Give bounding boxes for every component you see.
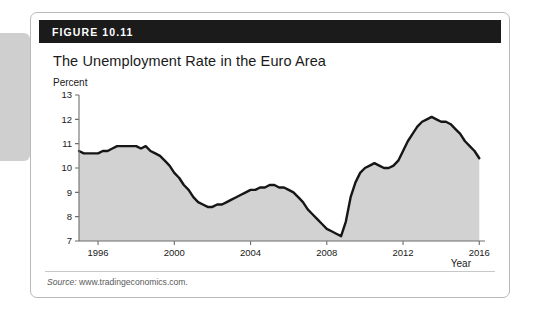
figure-divider	[45, 271, 495, 272]
svg-text:13: 13	[61, 91, 72, 100]
svg-text:2016: 2016	[469, 247, 490, 258]
svg-text:12: 12	[61, 114, 72, 125]
svg-text:2008: 2008	[316, 247, 337, 258]
side-tab-body	[0, 33, 30, 161]
figure-source: Source: www.tradingeconomics.com.	[47, 277, 188, 287]
svg-text:9: 9	[67, 187, 72, 198]
x-axis-label: Year	[451, 258, 471, 269]
svg-text:7: 7	[67, 235, 72, 246]
svg-text:2000: 2000	[164, 247, 185, 258]
y-axis-label: Percent	[53, 77, 87, 88]
source-prefix: Source:	[47, 277, 77, 287]
source-url-text: www.tradingeconomics.com.	[79, 277, 188, 287]
svg-text:2012: 2012	[392, 247, 413, 258]
x-axis-ticks: 199620002004200820122016	[87, 241, 489, 258]
svg-text:10: 10	[61, 162, 72, 173]
svg-text:11: 11	[62, 138, 72, 149]
figure-title: The Unemployment Rate in the Euro Area	[53, 53, 326, 69]
svg-text:2004: 2004	[240, 247, 261, 258]
figure-number-label: FIGURE 10.11	[39, 26, 133, 38]
figure-header-bar: FIGURE 10.11	[39, 20, 501, 43]
svg-text:8: 8	[67, 211, 72, 222]
unemployment-rate-area-chart: 78910111213 199620002004200820122016	[53, 91, 493, 267]
svg-text:1996: 1996	[87, 247, 108, 258]
y-axis-ticks: 78910111213	[61, 91, 79, 246]
figure-card: FIGURE 10.11 The Unemployment Rate in th…	[30, 12, 510, 298]
plot-region: 78910111213 199620002004200820122016	[53, 91, 493, 267]
chart-area: Percent 78910111213 19962000200420082012…	[53, 77, 493, 267]
area-fill	[79, 117, 479, 241]
